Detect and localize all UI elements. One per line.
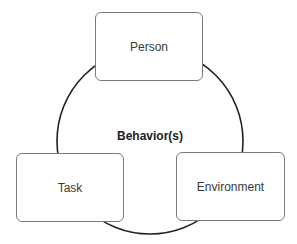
center-label-behaviors: Behavior(s): [117, 129, 183, 143]
node-task: Task: [16, 153, 124, 222]
node-environment-label: Environment: [197, 180, 264, 194]
node-environment: Environment: [176, 152, 285, 221]
node-person: Person: [95, 12, 203, 81]
node-task-label: Task: [58, 181, 83, 195]
node-person-label: Person: [130, 40, 168, 54]
